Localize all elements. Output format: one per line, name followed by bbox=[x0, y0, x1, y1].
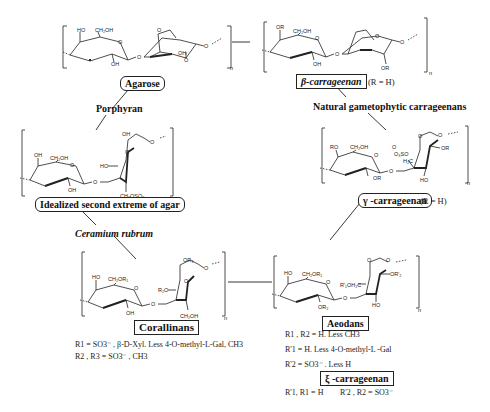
svg-text:O: O bbox=[315, 35, 320, 41]
node-aeodans-label: Aeodans bbox=[327, 318, 364, 329]
svg-text:n: n bbox=[429, 70, 432, 76]
svg-text:O: O bbox=[335, 51, 340, 57]
svg-text:CH₂OR₁: CH₂OR₁ bbox=[108, 276, 128, 282]
svg-text:O: O bbox=[400, 39, 405, 45]
node-gamma-carrageenan-label: γ -carrageenan bbox=[363, 195, 427, 206]
svg-text:n: n bbox=[467, 180, 470, 186]
svg-text:O: O bbox=[386, 257, 391, 263]
node-beta-carrageenan-label: β-carrageenan bbox=[301, 76, 362, 87]
svg-text:CH₂OH: CH₂OH bbox=[50, 155, 68, 161]
edge-ceramium-rubrum: Ceramium rubrum bbox=[75, 228, 153, 239]
svg-text:O: O bbox=[118, 39, 123, 45]
svg-text:OH: OH bbox=[178, 50, 186, 56]
svg-text:HO: HO bbox=[100, 163, 109, 169]
svg-text:O: O bbox=[204, 43, 209, 49]
node-corallinans: Corallinans bbox=[134, 320, 199, 335]
svg-text:OR₃: OR₃ bbox=[183, 257, 194, 263]
svg-text:n: n bbox=[418, 307, 421, 313]
svg-text:HO: HO bbox=[372, 302, 381, 308]
svg-text:O: O bbox=[392, 144, 397, 150]
svg-text:CH₂OH: CH₂OH bbox=[350, 144, 368, 150]
aeodans-note-1: R1 , R2 = H. Less CH3 bbox=[285, 330, 360, 339]
edge-natural-gametophytic: Natural gametophytic carrageenans bbox=[313, 101, 466, 112]
svg-text:O: O bbox=[375, 33, 380, 39]
gamma-carrageenan-note: (R = H) bbox=[420, 196, 447, 206]
svg-text:OH: OH bbox=[313, 61, 321, 67]
beta-carrageenan-structure bbox=[262, 18, 427, 72]
svg-text:O: O bbox=[93, 179, 98, 185]
xi-note-right: R'2 , R2 = SO3⁻ bbox=[340, 388, 393, 397]
corallinans-note-1: R1 = SO3⁻ , β-D-Xyl. Less 4-O-methyl-L-G… bbox=[75, 340, 243, 349]
svg-text:n: n bbox=[224, 315, 227, 321]
svg-text:O: O bbox=[438, 132, 443, 138]
aeodans-note-3: R'2 = SO3⁻ . Less H bbox=[285, 360, 351, 369]
svg-text:O: O bbox=[418, 133, 423, 139]
svg-text:O: O bbox=[184, 278, 189, 284]
svg-text:CH₂OH: CH₂OH bbox=[180, 313, 198, 319]
svg-text:O: O bbox=[184, 57, 189, 63]
node-xi-carrageenan: ξ -carrageenan bbox=[320, 371, 394, 386]
svg-text:CH₂OH: CH₂OH bbox=[95, 27, 113, 33]
svg-text:OR: OR bbox=[381, 65, 389, 71]
svg-text:R₂O: R₂O bbox=[158, 287, 169, 293]
svg-text:OH: OH bbox=[111, 61, 119, 67]
beta-carrageenan-note: (R = H) bbox=[368, 77, 395, 87]
node-aeodans: Aeodans bbox=[322, 316, 369, 331]
svg-text:CH₂OH: CH₂OH bbox=[293, 28, 311, 34]
edge-porphyran: Porphyran bbox=[96, 103, 143, 114]
svg-text:O: O bbox=[137, 54, 142, 60]
svg-text:OH: OH bbox=[122, 131, 130, 137]
svg-text:O: O bbox=[125, 149, 130, 155]
svg-text:O: O bbox=[150, 139, 155, 145]
svg-text:OR: OR bbox=[373, 175, 381, 181]
svg-text:CH₂OR₁: CH₂OR₁ bbox=[302, 271, 322, 277]
svg-text:O₃SO: O₃SO bbox=[394, 151, 409, 157]
corallinans-note-2: R2 , R3 = SO3⁻ , CH3 bbox=[75, 352, 148, 361]
svg-text:O: O bbox=[374, 152, 379, 158]
aeodans-note-2: R'1 = H. Less 4-O-methyl-L -Gal bbox=[285, 345, 392, 354]
svg-text:HO: HO bbox=[92, 274, 101, 280]
svg-text:n: n bbox=[230, 65, 233, 71]
svg-text:OH: OH bbox=[34, 152, 42, 158]
svg-text:OR'₂: OR'₂ bbox=[390, 271, 401, 277]
svg-text:O: O bbox=[389, 168, 394, 174]
svg-text:OH: OH bbox=[68, 187, 76, 193]
svg-text:O: O bbox=[134, 285, 139, 291]
node-idealized-agar: Idealized second extreme of agar bbox=[35, 197, 185, 212]
node-corallinans-label: Corallinans bbox=[139, 321, 194, 333]
node-beta-carrageenan: β-carrageenan bbox=[296, 74, 367, 89]
svg-text:O: O bbox=[70, 162, 75, 168]
svg-text:O: O bbox=[326, 279, 331, 285]
svg-text:OR: OR bbox=[441, 145, 449, 151]
svg-text:OR₂: OR₂ bbox=[318, 304, 328, 310]
svg-text:OH: OH bbox=[126, 310, 134, 316]
node-xi-carrageenan-label: ξ -carrageenan bbox=[325, 373, 389, 384]
svg-text:O: O bbox=[367, 257, 372, 263]
xi-note-left: R'1, R1 = H bbox=[285, 388, 323, 397]
node-idealized-agar-label: Idealized second extreme of agar bbox=[40, 199, 180, 210]
svg-text:H₂C: H₂C bbox=[403, 158, 413, 164]
svg-text:HO: HO bbox=[420, 177, 429, 183]
svg-text:RO: RO bbox=[330, 144, 339, 150]
svg-text:HO: HO bbox=[77, 27, 86, 33]
svg-text:R'₁OH₂C: R'₁OH₂C bbox=[340, 282, 361, 288]
node-agarose: Agarose bbox=[120, 76, 165, 91]
svg-text:OR: OR bbox=[276, 24, 284, 30]
svg-text:O: O bbox=[343, 295, 348, 301]
node-agarose-label: Agarose bbox=[125, 78, 160, 89]
svg-text:O: O bbox=[151, 301, 156, 307]
svg-text:O: O bbox=[204, 265, 209, 271]
svg-text:O: O bbox=[157, 27, 162, 33]
svg-text:HO: HO bbox=[284, 270, 293, 276]
